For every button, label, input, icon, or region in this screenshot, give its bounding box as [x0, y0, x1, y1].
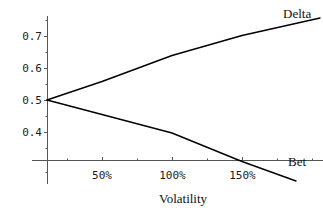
x-tick-label-1: 100% — [145, 169, 200, 182]
y-tick-label-3: 0.4 — [14, 126, 42, 139]
x-tick-label-0: 50% — [78, 169, 126, 182]
series-label-bet: Bet — [288, 154, 306, 170]
x-axis-title: Volatility — [133, 191, 233, 207]
x-axis-ticks — [68, 157, 313, 161]
y-tick-label-0: 0.7 — [14, 30, 42, 43]
series-label-delta: Delta — [283, 6, 311, 22]
x-tick-label-2: 150% — [215, 169, 270, 182]
y-tick-label-1: 0.6 — [14, 62, 42, 75]
y-axis-ticks — [44, 21, 48, 173]
y-tick-label-2: 0.5 — [14, 94, 42, 107]
series-line-delta — [47, 18, 320, 100]
chart-screenshot: 0.7 0.6 0.5 0.4 50% 100% 150% Delta Bet … — [0, 0, 323, 219]
chart-plot-area — [0, 0, 323, 219]
